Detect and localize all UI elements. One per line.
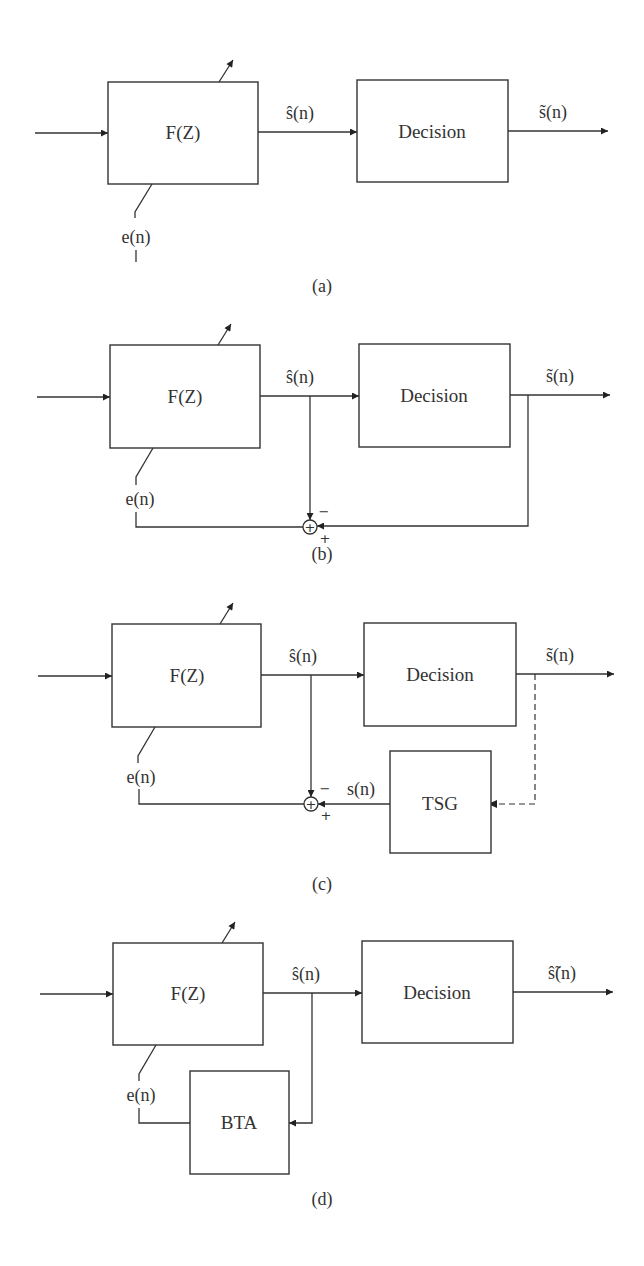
filter-label: F(Z) [170,665,205,687]
training-label: TSG [422,793,458,814]
error-input-line [135,184,152,218]
summer-minus-sign: − [320,781,331,796]
equalizer-block-diagrams: F(Z) ŝ(n) Decision s̃(n) e(n) (a) F(Z) ŝ… [0,0,644,1266]
decision-label: Decision [400,385,468,406]
summer-plus-symbol: + [305,520,316,535]
panel-a: F(Z) ŝ(n) Decision s̃(n) e(n) (a) [35,60,608,297]
panel-b: F(Z) ŝ(n) Decision s̃(n) + − + e(n) (b) [37,324,610,565]
filter-output-label: ŝ(n) [292,964,320,985]
filter-output-label: ŝ(n) [289,646,317,667]
decision-output-label: ŝ̃(n) [548,963,576,984]
error-return-line [136,512,303,527]
decision-label: Decision [403,982,471,1003]
decision-label: Decision [398,121,466,142]
summer-plus-symbol: + [306,797,317,812]
panel-d: F(Z) ŝ(n) Decision ŝ̃(n) BTA e(n) (d) [40,922,613,1210]
error-label: e(n) [126,489,155,510]
filter-label: F(Z) [171,983,206,1005]
error-input-line [139,1045,156,1081]
error-return-line [139,1108,190,1123]
error-label: e(n) [127,1085,156,1106]
error-label: e(n) [127,767,156,788]
decision-output-label: s̃(n) [539,102,567,123]
adaptive-arrow-icon [218,324,231,345]
panel-caption: (c) [312,874,332,895]
filter-label: F(Z) [166,122,201,144]
error-label: e(n) [122,227,151,248]
filter-label: F(Z) [168,386,203,408]
estimate-to-bta-arrow [289,993,312,1123]
panel-caption: (b) [312,544,333,565]
error-input-line [136,448,153,485]
panel-c: F(Z) ŝ(n) Decision s̃(n) TSG s(n) + − + … [38,603,614,895]
decision-output-label: s̃(n) [546,366,574,387]
filter-output-label: ŝ(n) [286,367,314,388]
panel-caption: (a) [312,276,332,297]
error-input-line [138,727,155,763]
decision-label: Decision [406,664,474,685]
decision-output-label: s̃(n) [546,645,574,666]
adaptive-arrow-icon [222,922,235,943]
adaptive-arrow-icon [220,603,233,624]
blind-label: BTA [221,1112,258,1133]
summer-minus-sign: − [319,504,330,519]
error-return-line [139,789,304,804]
training-output-label: s(n) [347,779,375,800]
summer-plus-sign: + [321,808,332,823]
adaptive-arrow-icon [219,60,233,82]
panel-caption: (d) [312,1189,333,1210]
filter-output-label: ŝ(n) [286,103,314,124]
